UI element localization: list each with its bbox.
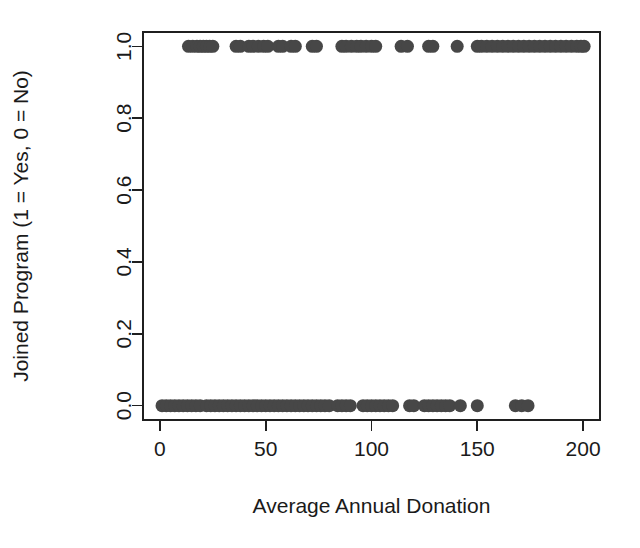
x-tick-label: 50 bbox=[254, 437, 277, 460]
y-tick-label: 0.0 bbox=[112, 391, 135, 420]
data-point bbox=[522, 399, 535, 412]
data-point bbox=[344, 399, 357, 412]
chart-canvas: 0.00.20.40.60.81.0 050100150200 Average … bbox=[0, 0, 640, 548]
x-axis-ticks bbox=[160, 420, 583, 431]
data-point bbox=[454, 399, 467, 412]
data-point bbox=[471, 399, 484, 412]
y-tick-label: 0.6 bbox=[112, 175, 135, 204]
data-point bbox=[386, 399, 399, 412]
data-points-layer bbox=[156, 40, 591, 412]
plot-frame bbox=[143, 32, 600, 420]
y-axis-ticks bbox=[132, 46, 143, 405]
x-tick-label: 200 bbox=[566, 437, 601, 460]
scatter-plot-figure: 0.00.20.40.60.81.0 050100150200 Average … bbox=[0, 0, 640, 548]
plot-box bbox=[143, 32, 600, 420]
y-tick-label: 0.4 bbox=[112, 247, 135, 277]
y-tick-label: 0.2 bbox=[112, 319, 135, 348]
data-point bbox=[310, 40, 323, 53]
y-tick-label: 0.8 bbox=[112, 104, 135, 133]
y-axis-title: Joined Program (1 = Yes, 0 = No) bbox=[9, 70, 32, 382]
data-point bbox=[401, 40, 414, 53]
x-tick-label: 150 bbox=[460, 437, 495, 460]
data-point bbox=[451, 40, 464, 53]
y-axis-tick-labels: 0.00.20.40.60.81.0 bbox=[112, 32, 135, 420]
data-point bbox=[578, 40, 591, 53]
data-point bbox=[426, 40, 439, 53]
x-axis-tick-labels: 050100150200 bbox=[154, 437, 601, 460]
data-point bbox=[369, 40, 382, 53]
y-tick-label: 1.0 bbox=[112, 32, 135, 61]
x-tick-label: 0 bbox=[154, 437, 166, 460]
data-point bbox=[289, 40, 302, 53]
x-tick-label: 100 bbox=[354, 437, 389, 460]
x-axis-title: Average Annual Donation bbox=[253, 494, 491, 517]
data-point bbox=[206, 40, 219, 53]
